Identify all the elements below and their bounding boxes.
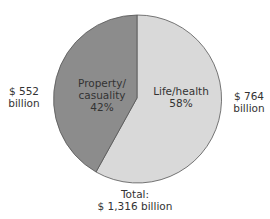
life-slice-label: Life/health 58%: [148, 85, 214, 109]
life-percent: 58%: [148, 97, 214, 109]
property-label-line2: casuality: [66, 89, 138, 101]
life-value-label: $ 764 billion: [228, 90, 270, 114]
property-label-line1: Property/: [66, 77, 138, 89]
property-value: $ 552: [4, 85, 44, 97]
property-slice-label: Property/ casuality 42%: [66, 77, 138, 113]
property-value-label: $ 552 billion: [4, 85, 44, 109]
total-value: $ 1,316 billion: [85, 200, 185, 212]
total-label: Total: $ 1,316 billion: [85, 188, 185, 212]
property-value-unit: billion: [4, 97, 44, 109]
life-value-unit: billion: [228, 102, 270, 114]
property-percent: 42%: [66, 101, 138, 113]
life-label-line1: Life/health: [148, 85, 214, 97]
life-value: $ 764: [228, 90, 270, 102]
total-heading: Total:: [85, 188, 185, 200]
